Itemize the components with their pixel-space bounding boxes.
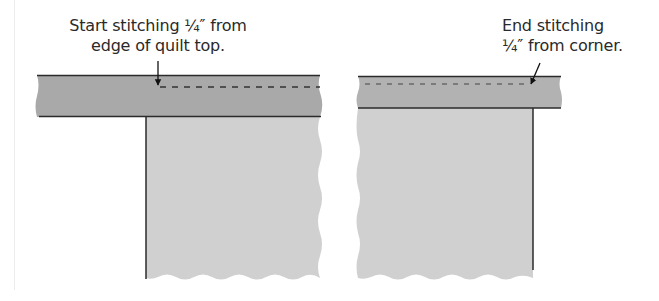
binding-strip-right xyxy=(357,76,563,108)
quilt-top-right xyxy=(357,108,534,280)
start-panel xyxy=(36,61,323,280)
quilt-top-left xyxy=(146,117,322,280)
binding-diagram xyxy=(0,0,659,301)
binding-strip-left xyxy=(36,75,323,117)
end-panel xyxy=(357,63,563,280)
